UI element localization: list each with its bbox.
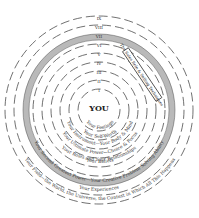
svg-text:V: V bbox=[96, 52, 101, 57]
svg-text:III: III bbox=[97, 70, 102, 75]
ring-numerals: I II III IV V VI VII VIII IX bbox=[94, 16, 103, 93]
concentric-rings-diagram: I II III IV V VI VII VIII IX YOU Your Fe… bbox=[0, 0, 199, 218]
svg-text:VIII: VIII bbox=[94, 25, 103, 30]
svg-text:VII: VII bbox=[95, 34, 103, 39]
center-label: YOU bbox=[88, 103, 109, 113]
svg-text:VI: VI bbox=[96, 43, 102, 48]
svg-text:IX: IX bbox=[97, 16, 102, 21]
svg-text:II: II bbox=[97, 79, 101, 84]
